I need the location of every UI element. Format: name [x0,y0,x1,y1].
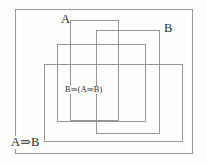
label-outer-formula: A⇒B [10,136,40,149]
scope-rectangle-a [71,21,119,121]
label-antecedent-a: A [61,13,70,26]
scope-rectangle-outer-formula [45,65,183,142]
label-inner-formula: B⇒(A⇒B) [64,86,103,94]
label-antecedent-b: B [164,22,173,35]
scope-rectangle-b [97,31,160,134]
implication-diagram: A B B⇒(A⇒B) A⇒B [0,0,207,164]
